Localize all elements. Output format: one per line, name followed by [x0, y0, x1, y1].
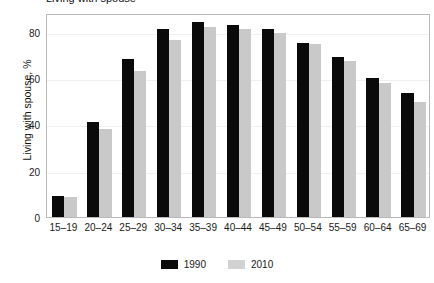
bar-group [401, 15, 425, 217]
bar-2010-55-59[interactable] [344, 61, 356, 217]
bar-2010-50-54[interactable] [309, 44, 321, 217]
x-tick-label: 25–29 [119, 222, 147, 233]
bar-2010-35-39[interactable] [204, 27, 216, 217]
bar-group [52, 15, 76, 217]
legend-label: 1990 [184, 259, 206, 270]
bar-group [332, 15, 356, 217]
bar-chart-figure: Living with spouse Living with spouse, %… [0, 0, 434, 283]
bar-2010-60-64[interactable] [379, 83, 391, 217]
legend-entry-2010[interactable]: 2010 [228, 259, 273, 270]
bar-group [297, 15, 321, 217]
bar-2010-40-44[interactable] [239, 29, 251, 217]
legend-entry-1990[interactable]: 1990 [161, 259, 206, 270]
bar-series-container [47, 15, 429, 217]
bar-group [122, 15, 146, 217]
bar-group [366, 15, 390, 217]
clipped-title-fragment: Living with spouse [46, 0, 346, 4]
bar-2010-65-69[interactable] [414, 102, 426, 217]
legend-label: 2010 [251, 259, 273, 270]
plot-frame [46, 14, 430, 218]
x-tick-label: 55–59 [329, 222, 357, 233]
bar-2010-45-49[interactable] [274, 33, 286, 217]
chart-legend: 19902010 [0, 259, 434, 270]
bar-2010-15-19[interactable] [64, 197, 76, 217]
y-tick-label: 0 [10, 213, 40, 224]
bar-group [87, 15, 111, 217]
bar-1990-20-24[interactable] [87, 122, 99, 217]
bar-group [192, 15, 216, 217]
x-tick-label: 45–49 [259, 222, 287, 233]
bar-1990-35-39[interactable] [192, 22, 204, 217]
bar-group [262, 15, 286, 217]
x-tick-label: 60–64 [364, 222, 392, 233]
bar-1990-55-59[interactable] [332, 57, 344, 217]
bar-group [157, 15, 181, 217]
bar-1990-60-64[interactable] [366, 78, 378, 217]
legend-swatch-icon [228, 260, 245, 269]
y-tick-label: 60 [10, 73, 40, 84]
bar-2010-20-24[interactable] [99, 129, 111, 217]
plot-area [47, 15, 429, 217]
x-tick-label: 35–39 [189, 222, 217, 233]
bar-1990-15-19[interactable] [52, 196, 64, 217]
y-tick-label: 80 [10, 27, 40, 38]
x-axis-tick-labels: 15–1920–2425–2930–3435–3940–4445–4950–54… [46, 222, 430, 238]
bar-1990-30-34[interactable] [157, 29, 169, 217]
bar-1990-40-44[interactable] [227, 25, 239, 217]
x-tick-label: 50–54 [294, 222, 322, 233]
y-tick-label: 40 [10, 120, 40, 131]
x-tick-label: 15–19 [50, 222, 78, 233]
x-tick-label: 20–24 [84, 222, 112, 233]
bar-group [227, 15, 251, 217]
x-tick-label: 40–44 [224, 222, 252, 233]
bar-1990-50-54[interactable] [297, 43, 309, 217]
bar-1990-65-69[interactable] [401, 93, 413, 217]
y-tick-label: 20 [10, 166, 40, 177]
x-tick-label: 65–69 [399, 222, 427, 233]
legend-swatch-icon [161, 260, 178, 269]
bar-1990-45-49[interactable] [262, 29, 274, 217]
bar-1990-25-29[interactable] [122, 59, 134, 217]
bar-2010-25-29[interactable] [134, 71, 146, 217]
x-tick-label: 30–34 [154, 222, 182, 233]
bar-2010-30-34[interactable] [169, 40, 181, 217]
